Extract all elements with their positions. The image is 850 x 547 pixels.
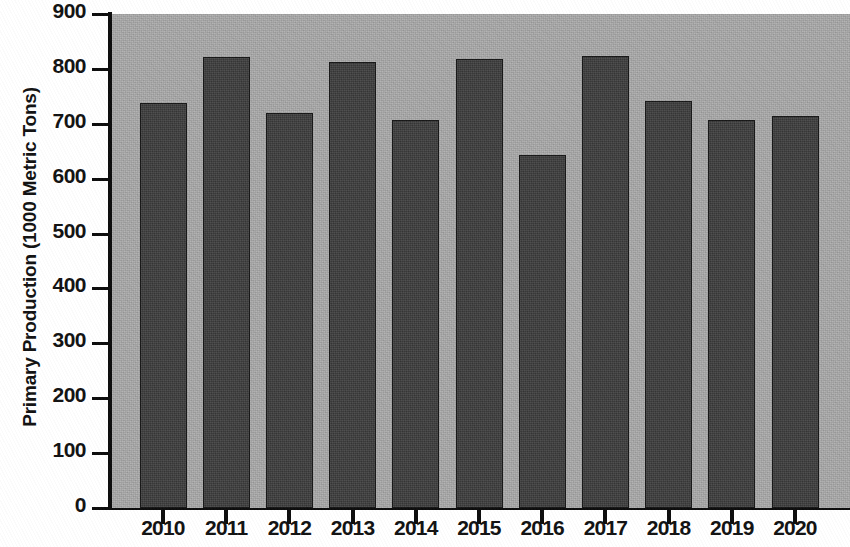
bar (772, 116, 819, 508)
y-axis-tick-label: 600 (0, 164, 86, 188)
y-axis-tick-mark (92, 397, 108, 400)
bar-texture (393, 121, 438, 507)
bar (140, 103, 187, 508)
y-axis-tick-mark (92, 13, 108, 16)
y-axis-tick-mark (92, 507, 108, 510)
bar-texture (267, 114, 312, 507)
bar-texture (646, 102, 691, 507)
bars-layer (112, 14, 850, 508)
y-axis-tick-mark (92, 123, 108, 126)
bar-texture (330, 63, 375, 507)
bar (645, 101, 692, 508)
bar (203, 57, 250, 508)
y-axis-tick-label: 200 (0, 383, 86, 407)
bar (392, 120, 439, 508)
y-axis-tick-mark (92, 452, 108, 455)
bar-chart: Primary Production (1000 Metric Tons) 01… (0, 0, 850, 547)
bar (708, 120, 755, 508)
y-axis-tick-label: 300 (0, 328, 86, 352)
bar (329, 62, 376, 508)
y-axis-tick-label: 800 (0, 54, 86, 78)
x-axis-tick-label: 2020 (758, 516, 832, 540)
bar-texture (583, 57, 628, 507)
bar (456, 59, 503, 508)
y-axis-tick-label: 700 (0, 109, 86, 133)
bar (519, 155, 566, 508)
y-axis-tick-label: 100 (0, 438, 86, 462)
bar-texture (709, 121, 754, 507)
y-axis-tick-mark (92, 233, 108, 236)
plot-area (112, 14, 850, 508)
bar-texture (773, 117, 818, 507)
y-axis-tick-label: 900 (0, 0, 86, 23)
bar-texture (520, 156, 565, 507)
bar-texture (204, 58, 249, 507)
bar-texture (457, 60, 502, 507)
bar (266, 113, 313, 508)
y-axis-tick-label: 0 (0, 493, 86, 517)
bar (582, 56, 629, 508)
bar-texture (141, 104, 186, 507)
y-axis-tick-label: 500 (0, 219, 86, 243)
y-axis-tick-mark (92, 178, 108, 181)
y-axis-tick-mark (92, 287, 108, 290)
y-axis-tick-label: 400 (0, 273, 86, 297)
y-axis-tick-mark (92, 68, 108, 71)
y-axis-tick-mark (92, 342, 108, 345)
